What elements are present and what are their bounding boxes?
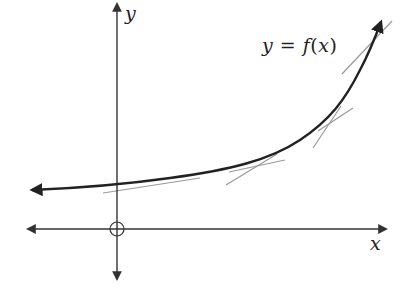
equation-lhs: y (262, 34, 273, 56)
equation-variable: x (318, 34, 329, 56)
equation-equals: = (280, 34, 296, 56)
function-graph (0, 0, 409, 291)
tangent-lines (103, 21, 392, 193)
equation-close-paren: ) (329, 34, 337, 56)
x-axis-label: x (370, 234, 381, 253)
tangent-line (342, 21, 392, 74)
tangent-line (226, 154, 277, 185)
y-axis-label: y (125, 4, 136, 23)
function-equation-label: y = f(x) (262, 36, 337, 55)
tangent-line (318, 108, 353, 131)
